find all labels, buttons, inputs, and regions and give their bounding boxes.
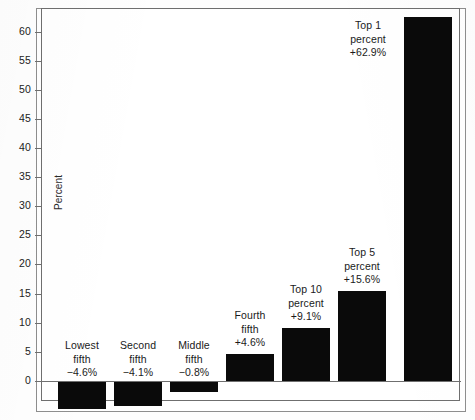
bar-top-1-percent [404,17,452,381]
y-tick-40: 40 [35,148,42,149]
y-tick-label-25: 25 [19,228,31,240]
bar-second-fifth [114,382,162,406]
bar-label-line2-top-10-percent: percent [270,297,342,311]
y-tick-35: 35 [35,177,42,178]
bar-lowest-fifth [58,382,106,409]
y-tick-label-10: 10 [19,316,31,328]
y-tick-15: 15 [35,294,42,295]
bar-value-top-10-percent: +9.1% [270,310,342,324]
y-tick-label-20: 20 [19,257,31,269]
bar-fourth-fifth [226,354,274,381]
y-tick-label-55: 55 [19,54,31,66]
bar-value-top-1-percent: +62.9% [334,46,402,60]
y-axis-title: Percent [53,153,64,233]
bar-label-line2-top-5-percent: percent [326,260,398,274]
y-tick-label-40: 40 [19,141,31,153]
chart-plot-area: Percent 60 55 50 45 40 35 30 25 20 15 10… [41,8,460,401]
y-tick-label-5: 5 [25,345,31,357]
bar-label-line1-top-1-percent: Top 1 [334,19,402,33]
y-tick-10: 10 [35,323,42,324]
y-tick-label-0: 0 [25,374,31,386]
y-tick-label-35: 35 [19,170,31,182]
y-tick-20: 20 [35,264,42,265]
y-tick-60: 60 [35,32,42,33]
bar-top-10-percent [282,328,330,381]
bar-value-top-5-percent: +15.6% [326,273,398,287]
bar-label-top-5-percent: Top 5 percent +15.6% [326,246,398,287]
bar-label-line2-fourth-fifth: fifth [216,323,284,337]
y-tick-55: 55 [35,61,42,62]
bar-label-line2-top-1-percent: percent [334,33,402,47]
y-tick-30: 30 [35,206,42,207]
y-tick-label-60: 60 [19,25,31,37]
y-tick-0: 0 [35,381,42,382]
y-tick-50: 50 [35,90,42,91]
bar-value-middle-fifth: −0.8% [160,366,228,380]
bar-label-line1-top-5-percent: Top 5 [326,246,398,260]
y-tick-label-30: 30 [19,199,31,211]
bar-top-5-percent [338,291,386,381]
y-tick-45: 45 [35,119,42,120]
bar-value-fourth-fifth: +4.6% [216,336,284,350]
bar-middle-fifth [170,382,218,392]
y-tick-label-50: 50 [19,83,31,95]
bar-label-line2-middle-fifth: fifth [160,353,228,367]
y-tick-5: 5 [35,352,42,353]
bar-label-top-10-percent: Top 10 percent +9.1% [270,283,342,324]
figure-page: Percent 60 55 50 45 40 35 30 25 20 15 10… [0,0,475,420]
y-tick-25: 25 [35,235,42,236]
y-tick-label-15: 15 [19,287,31,299]
bar-label-top-1-percent: Top 1 percent +62.9% [334,19,402,60]
y-tick-label-45: 45 [19,112,31,124]
